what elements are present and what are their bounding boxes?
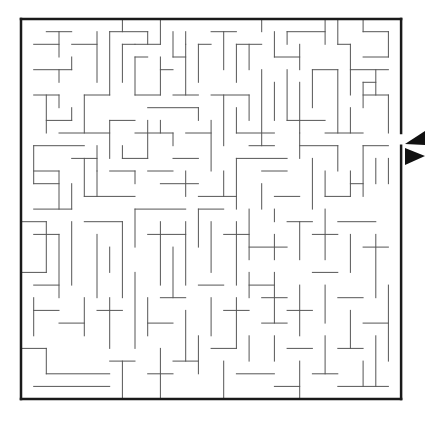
maze-puzzle: Maze puzzle Start here	[0, 0, 448, 427]
arrow-lower-triangle-icon	[405, 148, 425, 165]
maze-board[interactable]	[0, 0, 448, 427]
arrow-upper-triangle-icon	[405, 131, 425, 145]
entrance-arrow-icon	[405, 131, 425, 165]
maze-walls	[21, 19, 388, 399]
